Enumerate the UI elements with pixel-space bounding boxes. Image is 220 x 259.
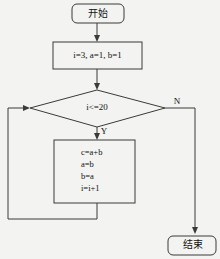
node-end[interactable]: 结束 [168,236,216,255]
start-label: 开始 [88,7,108,19]
connector-start-to-init [94,23,100,42]
branch-label-no: N [174,96,181,106]
connector-decision-to-end [165,108,198,234]
decision-label: i<=20 [86,102,108,112]
node-init[interactable]: i=3, a=1, b=1 [53,42,142,69]
node-process[interactable]: c=a+b a=b b=a i=i+1 [54,140,135,203]
node-decision[interactable]: i<=20 [30,90,165,127]
node-start[interactable]: 开始 [72,4,124,23]
process-line-4: i=i+1 [81,183,100,193]
branch-label-yes: Y [101,126,108,136]
process-line-2: a=b [81,159,94,169]
process-line-3: b=a [81,171,94,181]
flowchart-canvas: 开始 i=3, a=1, b=1 i<=20 Y N c=a+b a=b b=a… [0,0,220,259]
connector-decision-to-process [94,127,100,140]
end-label: 结束 [183,238,203,250]
connector-init-to-decision [94,69,100,90]
process-line-1: c=a+b [81,147,102,157]
init-label: i=3, a=1, b=1 [73,50,122,60]
